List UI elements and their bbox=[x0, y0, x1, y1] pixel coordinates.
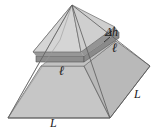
pyramid-figure: Δh ℓ ℓ L L bbox=[0, 0, 152, 134]
label-ell-left: ℓ bbox=[59, 64, 65, 77]
label-L-bottom: L bbox=[50, 117, 57, 129]
pyramid-illustration bbox=[0, 0, 152, 134]
slab-front-left-face bbox=[36, 56, 84, 62]
label-delta-h: Δh bbox=[105, 26, 118, 38]
label-ell-right: ℓ bbox=[112, 41, 118, 54]
slab-top-front-band bbox=[33, 52, 84, 56]
label-L-right: L bbox=[134, 88, 141, 100]
